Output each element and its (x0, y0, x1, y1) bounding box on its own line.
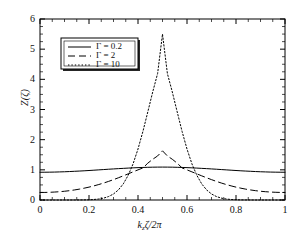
x-axis-label: kzζ/2π (0, 219, 299, 232)
y-tick-1: 1 (17, 164, 35, 175)
x-tick-0.8: 0.8 (221, 204, 251, 215)
x-tick-0.4: 0.4 (123, 204, 153, 215)
x-tick-0.6: 0.6 (172, 204, 202, 215)
figure-chart: Z(ζ) kzζ/2π 0123456 00.20.40.60.81 Γ = 0… (0, 0, 299, 243)
y-tick-5: 5 (17, 43, 35, 54)
x-axis-label-rest: ζ/2π (145, 219, 162, 230)
curve-1 (40, 167, 285, 172)
x-tick-0: 0 (25, 204, 55, 215)
y-tick-2: 2 (17, 134, 35, 145)
legend-label-3: Γ = 10 (96, 59, 120, 69)
x-tick-0.2: 0.2 (74, 204, 104, 215)
x-tick-1: 1 (270, 204, 299, 215)
y-tick-6: 6 (17, 13, 35, 24)
y-tick-4: 4 (17, 73, 35, 84)
y-tick-3: 3 (17, 104, 35, 115)
